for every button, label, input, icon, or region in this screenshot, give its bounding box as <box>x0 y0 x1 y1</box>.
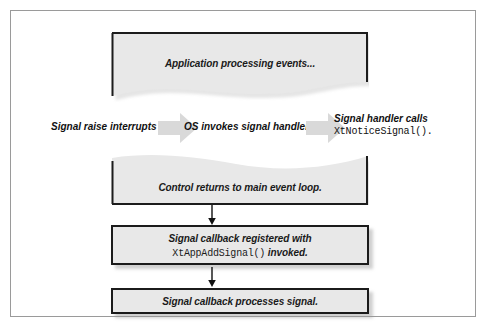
chain-step-1-label: Signal raise interrupts <box>51 121 157 132</box>
label-tail: invoked. <box>265 247 307 258</box>
process-box-label-line2: XtAppAddSignal() invoked. <box>113 247 367 259</box>
arrow-down-icon <box>205 205 219 227</box>
chain-step-3-label: Signal handler calls <box>334 113 428 124</box>
process-box-label: Control returns to main event loop. <box>111 182 369 193</box>
process-box-label-line1: Signal callback registered with <box>113 233 367 244</box>
process-box-callback-registered: Signal callback registered with XtAppAdd… <box>111 225 369 265</box>
process-box-application-processing: Application processing events... <box>111 32 369 104</box>
diagram-canvas: Application processing events... Signal … <box>0 0 487 334</box>
chain-step-3-code: XtNoticeSignal(). <box>334 126 433 137</box>
process-box-control-returns: Control returns to main event loop. <box>111 153 369 205</box>
figure-frame: Application processing events... Signal … <box>10 10 476 317</box>
process-box-callback-processes: Signal callback processes signal. <box>111 288 369 314</box>
chain-step-2-label: OS invokes signal handler <box>184 121 309 132</box>
signal-chain-row: Signal raise interrupts OS invokes signa… <box>25 109 485 147</box>
torn-top-shape-icon <box>111 153 369 205</box>
code-text: XtAppAddSignal() <box>172 248 265 259</box>
arrow-down-icon <box>205 267 219 289</box>
process-box-label: Signal callback processes signal. <box>113 296 367 307</box>
process-box-label: Application processing events... <box>111 58 369 69</box>
